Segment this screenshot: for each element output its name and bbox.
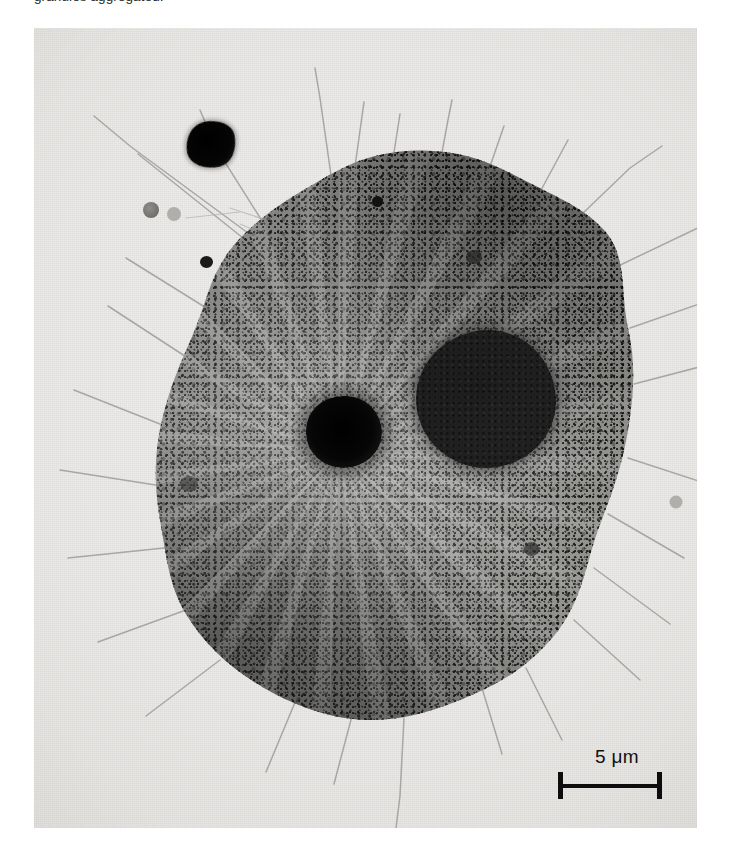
vesicle	[524, 542, 539, 556]
micrograph-plate: 5 μm	[34, 28, 697, 828]
scale-bar-cap-right	[657, 772, 662, 799]
scale-bar-cap-left	[558, 772, 563, 799]
figure-caption-strip: granules aggregated.	[0, 0, 737, 12]
vesicle	[372, 196, 383, 207]
nucleus	[416, 330, 556, 468]
scale-bar-label: 5 μm	[564, 746, 670, 768]
figure-caption-text: granules aggregated.	[34, 0, 164, 5]
cell	[34, 28, 697, 828]
vesicle	[200, 256, 213, 268]
scale-bar: 5 μm	[558, 746, 670, 798]
scale-bar-rule	[558, 772, 662, 798]
vesicle	[180, 476, 198, 492]
nucleus-texture	[416, 330, 556, 468]
extracellular-vesicle	[143, 202, 159, 218]
vesicle	[466, 250, 482, 264]
scale-bar-line	[558, 784, 662, 788]
centrosome	[306, 396, 382, 468]
